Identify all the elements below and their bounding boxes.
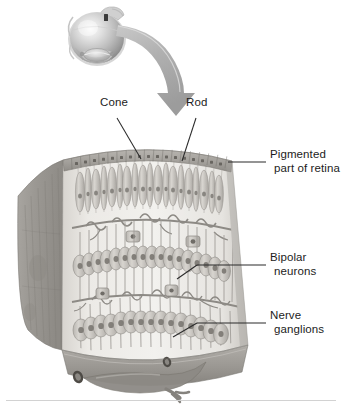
label-rod: Rod (186, 96, 207, 110)
retina-anatomy-figure (0, 0, 342, 407)
eyeball-overview (68, 7, 126, 66)
label-bipolar-neurons: Bipolar neurons (270, 251, 316, 278)
retina-wedge (18, 150, 248, 403)
label-rod-line1: Rod (186, 96, 207, 108)
label-nerve-line1: Nerve (270, 309, 301, 321)
fovea-marker (104, 14, 108, 21)
bottom-divider (6, 400, 336, 401)
label-cone-line1: Cone (100, 96, 128, 108)
label-pigmented-line2: part of retina (270, 162, 340, 176)
label-nerve-ganglions: Nerve ganglions (270, 309, 324, 336)
label-nerve-line2: ganglions (270, 323, 324, 337)
label-pigmented-part-of-retina: Pigmented part of retina (270, 148, 340, 175)
label-bipolar-line2: neurons (270, 265, 316, 279)
label-pigmented-line1: Pigmented (270, 148, 326, 160)
label-cone: Cone (100, 96, 128, 110)
label-bipolar-line1: Bipolar (270, 251, 307, 263)
